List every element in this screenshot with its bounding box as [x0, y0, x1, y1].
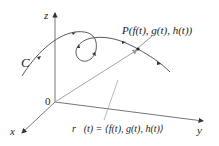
vector-label: r⃗(t) = ⟨f(t), g(t), h(t)⟩: [72, 123, 164, 134]
origin-label: 0: [45, 95, 51, 107]
y-axis-label: y: [197, 124, 202, 136]
y-axis: [55, 102, 203, 121]
curve-arrow-6: [157, 61, 161, 65]
curve-c: [22, 32, 170, 76]
x-axis-label: x: [10, 125, 15, 137]
point-label: P(f(t), g(t), h(t)): [122, 24, 192, 36]
curve-label: C: [21, 55, 30, 71]
vector-label-pointer: [104, 80, 118, 120]
curve-arrow-1: [37, 56, 41, 60]
position-vector: [55, 50, 137, 102]
z-axis-label: z: [44, 9, 48, 21]
point-label-pointer: [138, 36, 152, 48]
point-p: [136, 47, 139, 50]
